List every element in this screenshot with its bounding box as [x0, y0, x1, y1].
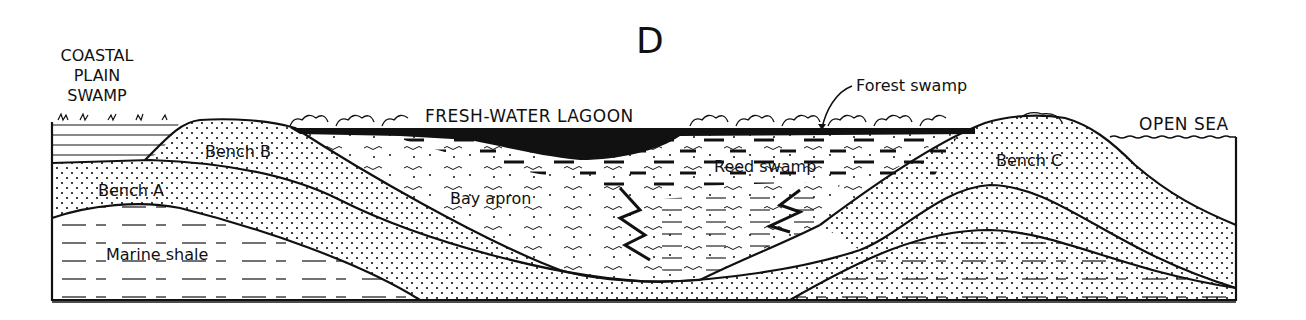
label-bench-c: Bench C	[996, 151, 1062, 170]
label-line: SWAMP	[52, 86, 142, 106]
label-reed-swamp: Reed swamp	[714, 157, 816, 176]
label-bay-apron: Bay apron	[450, 189, 531, 208]
label-forest-swamp: Forest swamp	[856, 76, 967, 95]
label-coastal-plain-swamp: COASTAL PLAIN SWAMP	[52, 46, 142, 106]
label-line: PLAIN	[52, 66, 142, 86]
label-bench-a: Bench A	[98, 181, 164, 200]
label-line: COASTAL	[52, 46, 142, 66]
panel-label: D	[636, 20, 664, 61]
label-open-sea: OPEN SEA	[1139, 114, 1229, 134]
label-marine-shale: Marine shale	[106, 245, 208, 264]
label-fresh-water-lagoon: FRESH-WATER LAGOON	[425, 106, 634, 126]
section-frame	[52, 86, 1236, 302]
label-bench-b: Bench B	[205, 142, 271, 161]
